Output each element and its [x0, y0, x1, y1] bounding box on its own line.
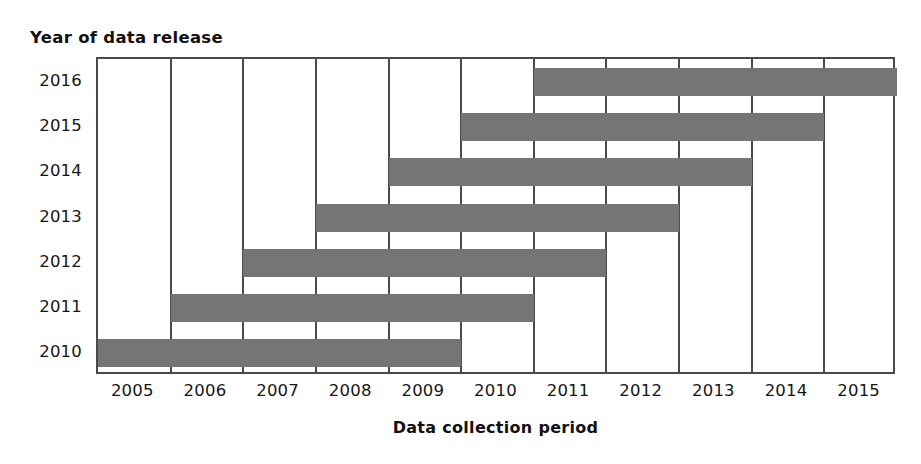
x-tick-label-2010: 2010: [474, 381, 517, 400]
y-axis-tick-labels: 2016201520142013201220112010: [0, 57, 82, 374]
y-tick-label-2015: 2015: [12, 115, 82, 134]
x-tick-label-2011: 2011: [547, 381, 590, 400]
y-axis-title: Year of data release: [30, 28, 223, 47]
gridline-vertical: [170, 59, 172, 372]
x-tick-label-2012: 2012: [619, 381, 662, 400]
y-tick-label-2010: 2010: [12, 342, 82, 361]
bar-2011: [171, 294, 534, 322]
plot-area: [96, 57, 895, 374]
x-tick-label-2005: 2005: [111, 381, 154, 400]
x-tick-label-2015: 2015: [837, 381, 880, 400]
x-tick-label-2014: 2014: [765, 381, 808, 400]
gridline-vertical: [823, 59, 825, 372]
bar-2015: [461, 113, 824, 141]
x-tick-label-2008: 2008: [329, 381, 372, 400]
chart-container: Year of data release 2016201520142013201…: [0, 0, 921, 464]
x-tick-label-2009: 2009: [401, 381, 444, 400]
bar-2010: [98, 339, 461, 367]
y-tick-label-2016: 2016: [12, 70, 82, 89]
y-tick-label-2011: 2011: [12, 297, 82, 316]
y-tick-label-2014: 2014: [12, 161, 82, 180]
y-tick-label-2013: 2013: [12, 206, 82, 225]
bar-2016: [534, 68, 897, 96]
x-tick-label-2007: 2007: [256, 381, 299, 400]
x-tick-label-2013: 2013: [692, 381, 735, 400]
x-axis-title: Data collection period: [96, 418, 895, 437]
bar-2013: [316, 204, 679, 232]
x-axis-tick-labels: 2005200620072008200920102011201220132014…: [96, 381, 895, 407]
bar-2012: [243, 249, 606, 277]
gridline-vertical: [751, 59, 753, 372]
y-tick-label-2012: 2012: [12, 251, 82, 270]
x-tick-label-2006: 2006: [184, 381, 227, 400]
gridline-vertical: [242, 59, 244, 372]
plot-inner: [98, 59, 893, 372]
bar-2014: [389, 158, 752, 186]
